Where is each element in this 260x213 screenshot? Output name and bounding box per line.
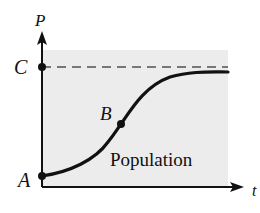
plot-canvas: P t C A B Population — [0, 0, 260, 213]
point-b-dot — [117, 120, 125, 128]
point-a-dot — [38, 172, 46, 180]
point-c-label: C — [14, 56, 28, 78]
y-axis-label: P — [34, 11, 45, 30]
logistic-growth-figure: P t C A B Population — [0, 0, 260, 213]
point-a-label: A — [16, 169, 31, 191]
curve-label: Population — [110, 149, 193, 170]
x-axis-label: t — [252, 182, 257, 199]
point-c-dot — [38, 63, 46, 71]
point-b-label: B — [100, 103, 112, 124]
